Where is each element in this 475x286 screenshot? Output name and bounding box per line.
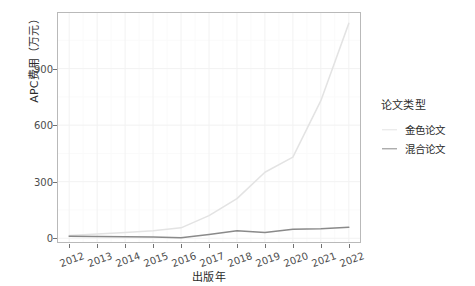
x-tick-mark: [265, 244, 266, 248]
x-tick-mark: [181, 244, 182, 248]
x-tick-mark: [97, 244, 98, 248]
x-tick-label: 2018: [226, 250, 254, 269]
x-tick-label: 2021: [310, 250, 338, 269]
legend-line-icon: [381, 142, 398, 156]
x-tick-mark: [69, 244, 70, 248]
legend: 论文类型 金色论文混合论文: [381, 96, 473, 159]
x-tick-mark: [153, 244, 154, 248]
legend-item[interactable]: 金色论文: [381, 121, 473, 138]
x-tick-label: 2013: [86, 250, 114, 269]
legend-title: 论文类型: [381, 96, 473, 112]
x-tick-label: 2012: [58, 250, 86, 269]
legend-item-label: 混合论文: [405, 141, 445, 156]
x-tick-label: 2019: [254, 250, 282, 269]
legend-item-label: 金色论文: [405, 122, 445, 137]
x-tick-mark: [237, 244, 238, 248]
x-tick-label: 2020: [282, 250, 310, 269]
x-tick-label: 2017: [198, 250, 226, 269]
x-tick-mark: [209, 244, 210, 248]
chart-container: APC费用（万元） 0300600900 2012201320142015201…: [0, 0, 475, 286]
x-tick-label: 2022: [338, 250, 366, 269]
legend-item[interactable]: 混合论文: [381, 140, 473, 157]
x-tick-label: 2015: [142, 250, 170, 269]
x-tick-label: 2016: [170, 250, 198, 269]
x-tick-label: 2014: [114, 250, 142, 269]
x-axis-title: 出版年: [57, 268, 361, 284]
legend-line-icon: [381, 123, 398, 137]
x-tick-mark: [349, 244, 350, 248]
x-tick-mark: [321, 244, 322, 248]
x-tick-mark: [125, 244, 126, 248]
x-tick-mark: [293, 244, 294, 248]
legend-items: 金色论文混合论文: [381, 121, 473, 157]
